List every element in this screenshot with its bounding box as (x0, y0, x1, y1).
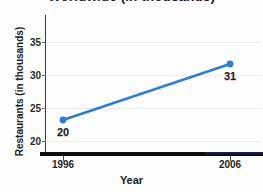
x-axis-label: Year (0, 174, 263, 186)
chart-container: Worldwide (in thousands) Restaurants (in… (0, 0, 263, 192)
series-line (63, 64, 230, 120)
data-label-2006: 31 (224, 70, 236, 82)
data-point-1996 (60, 117, 67, 124)
x-tick-label: 1996 (41, 159, 85, 170)
x-tick-label: 2006 (208, 159, 252, 170)
data-point-2006 (227, 61, 234, 68)
data-label-1996: 20 (57, 126, 69, 138)
